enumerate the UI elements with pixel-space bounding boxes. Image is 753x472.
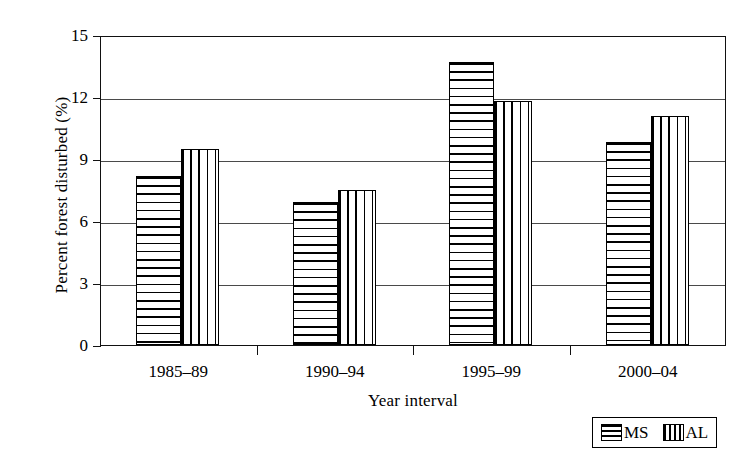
bar-chart-figure: Percent forest disturbed (%) 03691215 19… [0, 0, 753, 472]
bar-al [651, 116, 689, 345]
legend-entry: AL [663, 424, 709, 441]
vertical-stripe-swatch [663, 424, 684, 441]
x-tick [570, 346, 571, 355]
chart-legend: MSAL [592, 417, 717, 448]
bar-al [494, 101, 532, 345]
y-tick-label-text: 6 [80, 213, 89, 230]
x-axis-title: Year interval [100, 391, 726, 411]
y-tick-label-text: 0 [80, 337, 89, 354]
bar-ms [606, 142, 651, 345]
y-tick-label-text: 3 [80, 275, 89, 292]
plot-area [100, 36, 726, 346]
legend-entry: MS [601, 424, 649, 441]
legend-label: MS [624, 424, 649, 441]
bar-ms [449, 62, 494, 345]
y-tick-label-text: 15 [71, 27, 88, 44]
legend-label: AL [686, 424, 709, 441]
y-tick-label-text: 9 [80, 151, 89, 168]
x-tick-label: 1990–94 [255, 362, 415, 382]
x-tick [413, 346, 414, 355]
y-axis-title: Percent forest disturbed (%) [52, 35, 72, 355]
y-tick-label-text: 12 [71, 89, 88, 106]
y-tick [93, 346, 101, 347]
x-tick [257, 346, 258, 355]
x-tick-label: 2000–04 [568, 362, 728, 382]
bar-al [338, 190, 376, 345]
bar-ms [293, 202, 338, 345]
gridline [101, 99, 725, 100]
bar-al [181, 149, 219, 345]
horizontal-stripe-swatch [601, 424, 622, 441]
bar-ms [136, 176, 181, 345]
x-tick-label: 1985–89 [98, 362, 258, 382]
x-tick-label: 1995–99 [411, 362, 571, 382]
